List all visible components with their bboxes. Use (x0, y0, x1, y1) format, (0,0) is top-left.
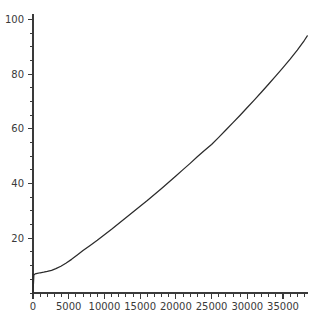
y-tick-label: 80 (11, 69, 24, 80)
y-axis-tick-labels: 20406080100 (5, 14, 24, 244)
axes-group (33, 14, 308, 293)
y-axis-major-ticks (28, 19, 34, 238)
x-tick-label: 30000 (231, 301, 263, 312)
y-tick-label: 100 (5, 14, 24, 25)
data-series-line (33, 36, 307, 293)
x-tick-label: 5000 (56, 301, 81, 312)
x-tick-label: 10000 (89, 301, 121, 312)
x-axis-tick-labels: 05000100001500020000250003000035000 (30, 301, 299, 312)
x-tick-label: 35000 (267, 301, 299, 312)
chart-container: 20406080100 0500010000150002000025000300… (0, 0, 316, 322)
y-tick-label: 40 (11, 178, 24, 189)
y-tick-label: 20 (11, 233, 24, 244)
y-tick-label: 60 (11, 123, 24, 134)
x-tick-label: 0 (30, 301, 36, 312)
line-chart: 20406080100 0500010000150002000025000300… (0, 0, 316, 322)
x-tick-label: 20000 (160, 301, 192, 312)
x-tick-label: 25000 (196, 301, 228, 312)
x-tick-label: 15000 (124, 301, 156, 312)
x-axis-major-ticks (33, 293, 283, 299)
